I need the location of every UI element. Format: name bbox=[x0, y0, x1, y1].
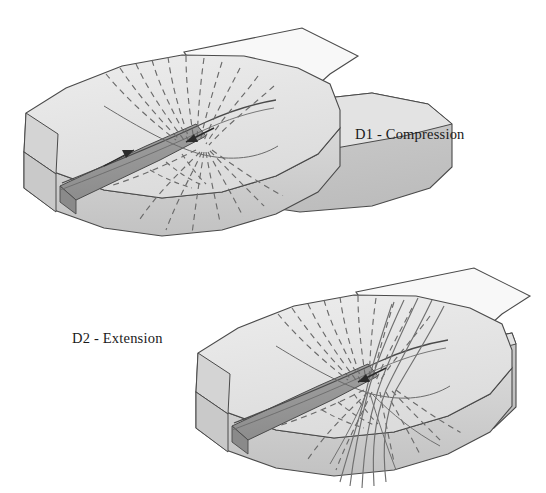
d2-label: D2 - Extension bbox=[72, 330, 163, 347]
d2-block-diagram bbox=[196, 268, 530, 488]
fault-block-diagram-figure bbox=[0, 0, 546, 493]
d1-label: D1 - Compression bbox=[355, 126, 465, 143]
